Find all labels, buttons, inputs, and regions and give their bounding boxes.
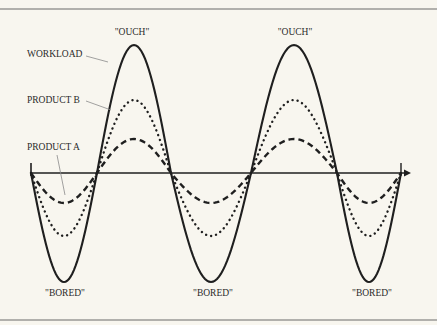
trough-label-2: "BORED" [193,288,233,298]
peak-label-2: "OUCH" [278,27,313,37]
product-a-curve [31,139,401,203]
trough-label-3: "BORED" [352,288,392,298]
diagram-canvas: WORKLOAD PRODUCT B PRODUCT A "OUCH" "OUC… [0,0,437,325]
product-a-label: PRODUCT A [27,142,80,152]
axis-arrow-icon [404,170,411,177]
product-b-label: PRODUCT B [27,95,80,105]
workload-leader [86,56,108,62]
workload-curve [31,45,401,282]
wave-diagram: WORKLOAD PRODUCT B PRODUCT A "OUCH" "OUC… [0,0,437,325]
trough-label-1: "BORED" [45,288,85,298]
peak-label-1: "OUCH" [115,27,150,37]
product-b-leader [86,101,111,110]
workload-label: WORKLOAD [27,49,83,59]
product-a-leader [57,155,65,195]
